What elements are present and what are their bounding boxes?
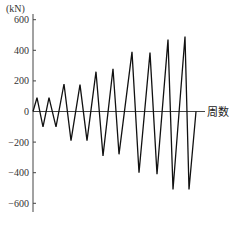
y-ticks: 6004002000−200−400−600 bbox=[8, 14, 36, 209]
y-tick-label: 400 bbox=[14, 45, 29, 56]
load-cycle-line bbox=[33, 37, 196, 190]
y-tick-label: 200 bbox=[14, 75, 29, 86]
y-unit-label: (kN) bbox=[6, 3, 25, 15]
y-tick-label: 0 bbox=[24, 106, 29, 117]
y-tick-label: −600 bbox=[8, 198, 29, 209]
x-axis-label: 周数 bbox=[207, 106, 229, 119]
y-tick-label: 600 bbox=[14, 14, 29, 25]
y-tick-label: −400 bbox=[8, 167, 29, 178]
y-tick-label: −200 bbox=[8, 137, 29, 148]
chart: (kN) 周数 6004002000−200−400−600 bbox=[0, 0, 236, 233]
